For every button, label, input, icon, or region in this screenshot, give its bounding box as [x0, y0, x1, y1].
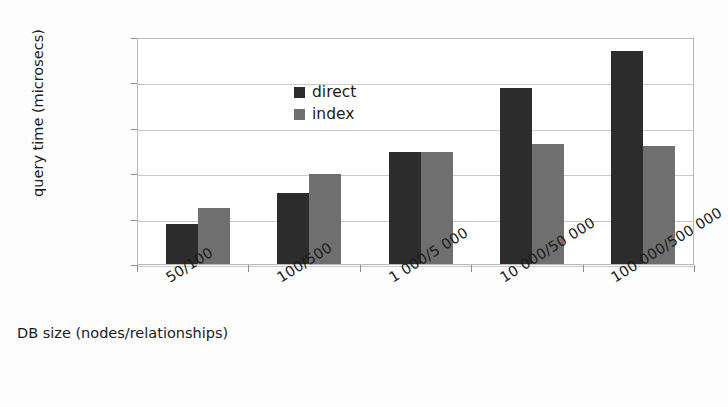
legend-item-index: index	[294, 103, 356, 125]
x-tick-mark	[248, 265, 249, 272]
bar-direct-3	[500, 88, 532, 264]
y-axis-title-container: query time (microsecs)	[0, 95, 88, 131]
legend-label-index: index	[312, 105, 354, 123]
bar-direct-4	[611, 51, 643, 264]
x-tick-mark	[583, 265, 584, 272]
x-tick-mark	[471, 265, 472, 272]
bar-chart: query time (microsecs) 100 000 00010 000…	[0, 0, 728, 407]
x-tick-mark	[694, 265, 695, 272]
legend: direct index	[294, 81, 356, 125]
x-axis-title: DB size (nodes/relationships)	[17, 325, 228, 341]
legend-label-direct: direct	[312, 83, 356, 101]
bar-direct-2	[389, 152, 421, 264]
gridline	[138, 130, 693, 131]
gridline	[138, 84, 693, 85]
x-tick-mark	[360, 265, 361, 272]
x-tick-mark	[137, 265, 138, 272]
legend-item-direct: direct	[294, 81, 356, 103]
legend-swatch-direct-icon	[294, 87, 305, 98]
plot-area: direct index	[137, 38, 694, 265]
legend-swatch-index-icon	[294, 109, 305, 120]
y-axis-title: query time (microsecs)	[30, 29, 46, 197]
